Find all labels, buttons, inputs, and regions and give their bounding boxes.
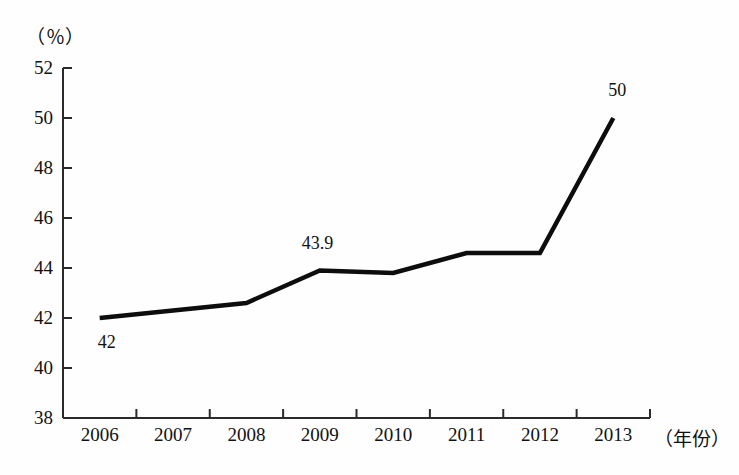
- line-chart: （％） （年份） 3840424446485052 20062007200820…: [0, 0, 739, 475]
- plot-area: [0, 0, 739, 475]
- data-series-line: [100, 118, 614, 318]
- x-axis-ticks: [63, 409, 650, 418]
- axes: [63, 68, 650, 418]
- y-axis-ticks: [63, 68, 72, 418]
